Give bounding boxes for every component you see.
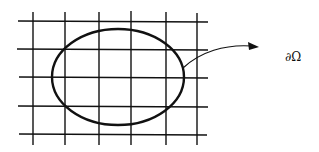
arrow-head-icon [248,42,259,50]
grid-horizontal-line [18,21,208,22]
grid-horizontal-line [17,49,208,50]
boundary-label: ∂Ω [285,50,301,64]
arrow-shaft [183,46,252,68]
grid-horizontal-line [19,134,207,135]
diagram-canvas [0,0,319,152]
grid-horizontal-line [18,106,208,107]
grid-horizontal-line [19,77,208,78]
boundary-arrow [183,42,259,68]
